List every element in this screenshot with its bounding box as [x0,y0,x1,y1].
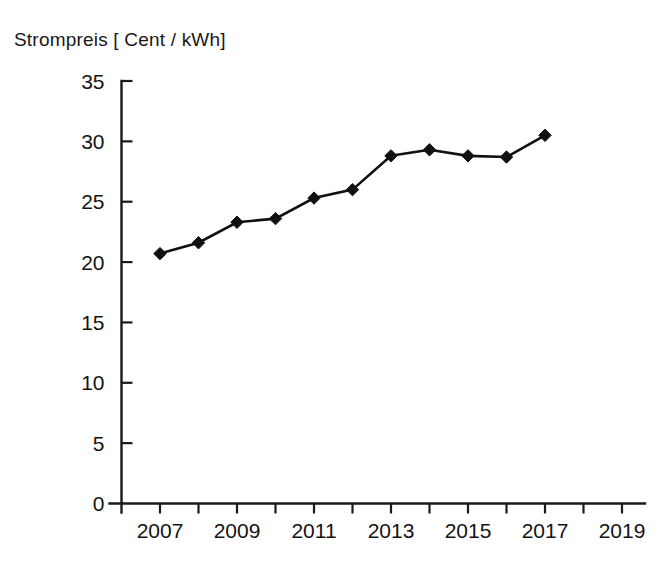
y-axis-tick-label: 35 [81,70,104,93]
chart-figure: Strompreis [ Cent / kWh] 051015202530352… [0,0,668,565]
line-chart-plot: 0510152025303520072009201120132015201720… [0,0,668,565]
x-axis-tick-label: 2017 [522,519,569,542]
data-point-marker [539,129,551,141]
y-axis-tick-label: 25 [81,190,104,213]
data-point-marker [423,144,435,156]
y-axis-tick-label: 20 [81,251,104,274]
x-axis-tick-label: 2007 [137,519,184,542]
x-axis-tick-label: 2015 [445,519,492,542]
y-axis-tick-label: 30 [81,130,104,153]
data-point-marker [500,151,512,163]
x-axis-tick-label: 2009 [214,519,261,542]
x-axis-tick-label: 2013 [368,519,415,542]
x-axis-tick-label: 2019 [599,519,646,542]
x-axis-tick-label: 2011 [291,519,336,542]
data-point-marker [192,237,204,249]
data-point-marker [462,150,474,162]
data-point-marker [308,192,320,204]
data-point-marker [154,247,166,259]
y-axis-tick-label: 10 [81,371,104,394]
y-axis-tick-label: 0 [93,492,105,515]
data-point-marker [269,212,281,224]
y-axis-tick-label: 5 [93,432,105,455]
y-axis-tick-label: 15 [81,311,104,334]
data-point-marker [231,216,243,228]
